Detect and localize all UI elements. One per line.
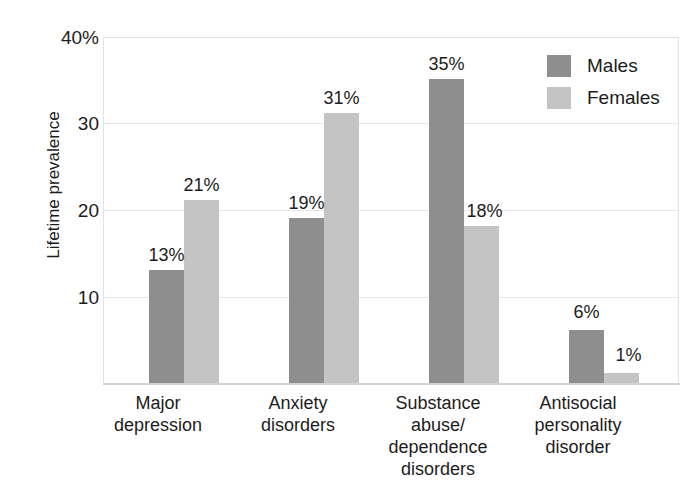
category-line-1: Anxiety (238, 393, 358, 415)
legend-item-females: Females (547, 82, 677, 114)
bar-value-females-major-depression: 21% (169, 176, 234, 194)
bar-females-antisocial-personality (604, 373, 639, 383)
bar-females-major-depression (184, 200, 219, 383)
category-line-2: personality (518, 415, 638, 437)
y-tick-30: 30 (47, 114, 99, 133)
bar-value-males-antisocial-personality: 6% (554, 303, 619, 321)
category-line-3: dependence (378, 437, 498, 459)
bar-value-males-major-depression: 13% (134, 246, 199, 264)
bar-males-substance-abuse (429, 79, 464, 383)
category-line-1: Substance (378, 393, 498, 415)
gridline-30 (104, 123, 678, 124)
category-line-2: depression (98, 415, 218, 437)
bar-females-anxiety-disorders (324, 113, 359, 383)
category-label-antisocial-personality: Antisocial personality disorder (518, 393, 638, 459)
bar-value-males-substance-abuse: 35% (414, 55, 479, 73)
y-tick-10: 10 (47, 288, 99, 307)
bar-value-females-antisocial-personality: 1% (596, 346, 661, 364)
chart-legend: Males Females (547, 50, 677, 114)
legend-swatch-males-icon (547, 55, 571, 77)
category-line-2: abuse/ (378, 415, 498, 437)
legend-label-females: Females (587, 87, 660, 109)
category-label-major-depression: Major depression (98, 393, 218, 437)
bar-value-females-substance-abuse: 18% (452, 202, 517, 220)
bar-value-females-anxiety-disorders: 31% (309, 89, 374, 107)
cut-off-title (0, 0, 694, 2)
legend-item-males: Males (547, 50, 677, 82)
y-axis-tick-labels: 40% 30 20 10 (41, 0, 99, 496)
category-label-substance-abuse: Substance abuse/ dependence disorders (378, 393, 498, 481)
bar-value-males-anxiety-disorders: 19% (274, 194, 339, 212)
bar-males-major-depression (149, 270, 184, 383)
category-line-1: Major (98, 393, 218, 415)
y-tick-40: 40% (47, 28, 99, 47)
plot-area: 13% 21% 19% 31% 35% 18% 6% 1% Males Fema… (103, 37, 679, 384)
bar-females-substance-abuse (464, 226, 499, 383)
category-line-1: Antisocial (518, 393, 638, 415)
bar-males-anxiety-disorders (289, 218, 324, 383)
y-tick-20: 20 (47, 201, 99, 220)
category-line-4: disorders (378, 459, 498, 481)
legend-label-males: Males (587, 55, 638, 77)
category-label-anxiety-disorders: Anxiety disorders (238, 393, 358, 437)
category-line-2: disorders (238, 415, 358, 437)
category-line-3: disorder (518, 437, 638, 459)
legend-swatch-females-icon (547, 87, 571, 109)
x-axis-baseline (103, 383, 680, 385)
